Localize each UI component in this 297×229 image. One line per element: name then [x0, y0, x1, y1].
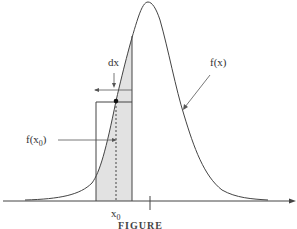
- fx0-label: f(x0): [26, 134, 47, 145]
- x-axis-arrow-icon: [289, 199, 296, 204]
- fx0-label-close: ): [43, 133, 47, 145]
- dx-label: dx: [108, 57, 119, 68]
- fx-pointer-arrow-icon: [183, 104, 188, 110]
- point-on-curve: [114, 99, 119, 104]
- fx0-label-sub: 0: [39, 139, 43, 148]
- fx-label: f(x): [210, 57, 227, 68]
- density-curve: [25, 2, 268, 200]
- dx-pointer-arrow-icon: [112, 83, 116, 88]
- fx-pointer-line: [185, 75, 210, 107]
- figure-caption: FIGURE: [118, 220, 163, 229]
- density-diagram: [0, 0, 297, 229]
- x0-label: x0: [111, 208, 121, 219]
- fx0-label-main: f(x: [26, 133, 39, 145]
- dx-arrow-left-icon: [94, 88, 99, 92]
- x0-label-main: x: [111, 207, 117, 219]
- dx-label-text: dx: [108, 56, 119, 68]
- fx-label-text: f(x): [210, 56, 227, 68]
